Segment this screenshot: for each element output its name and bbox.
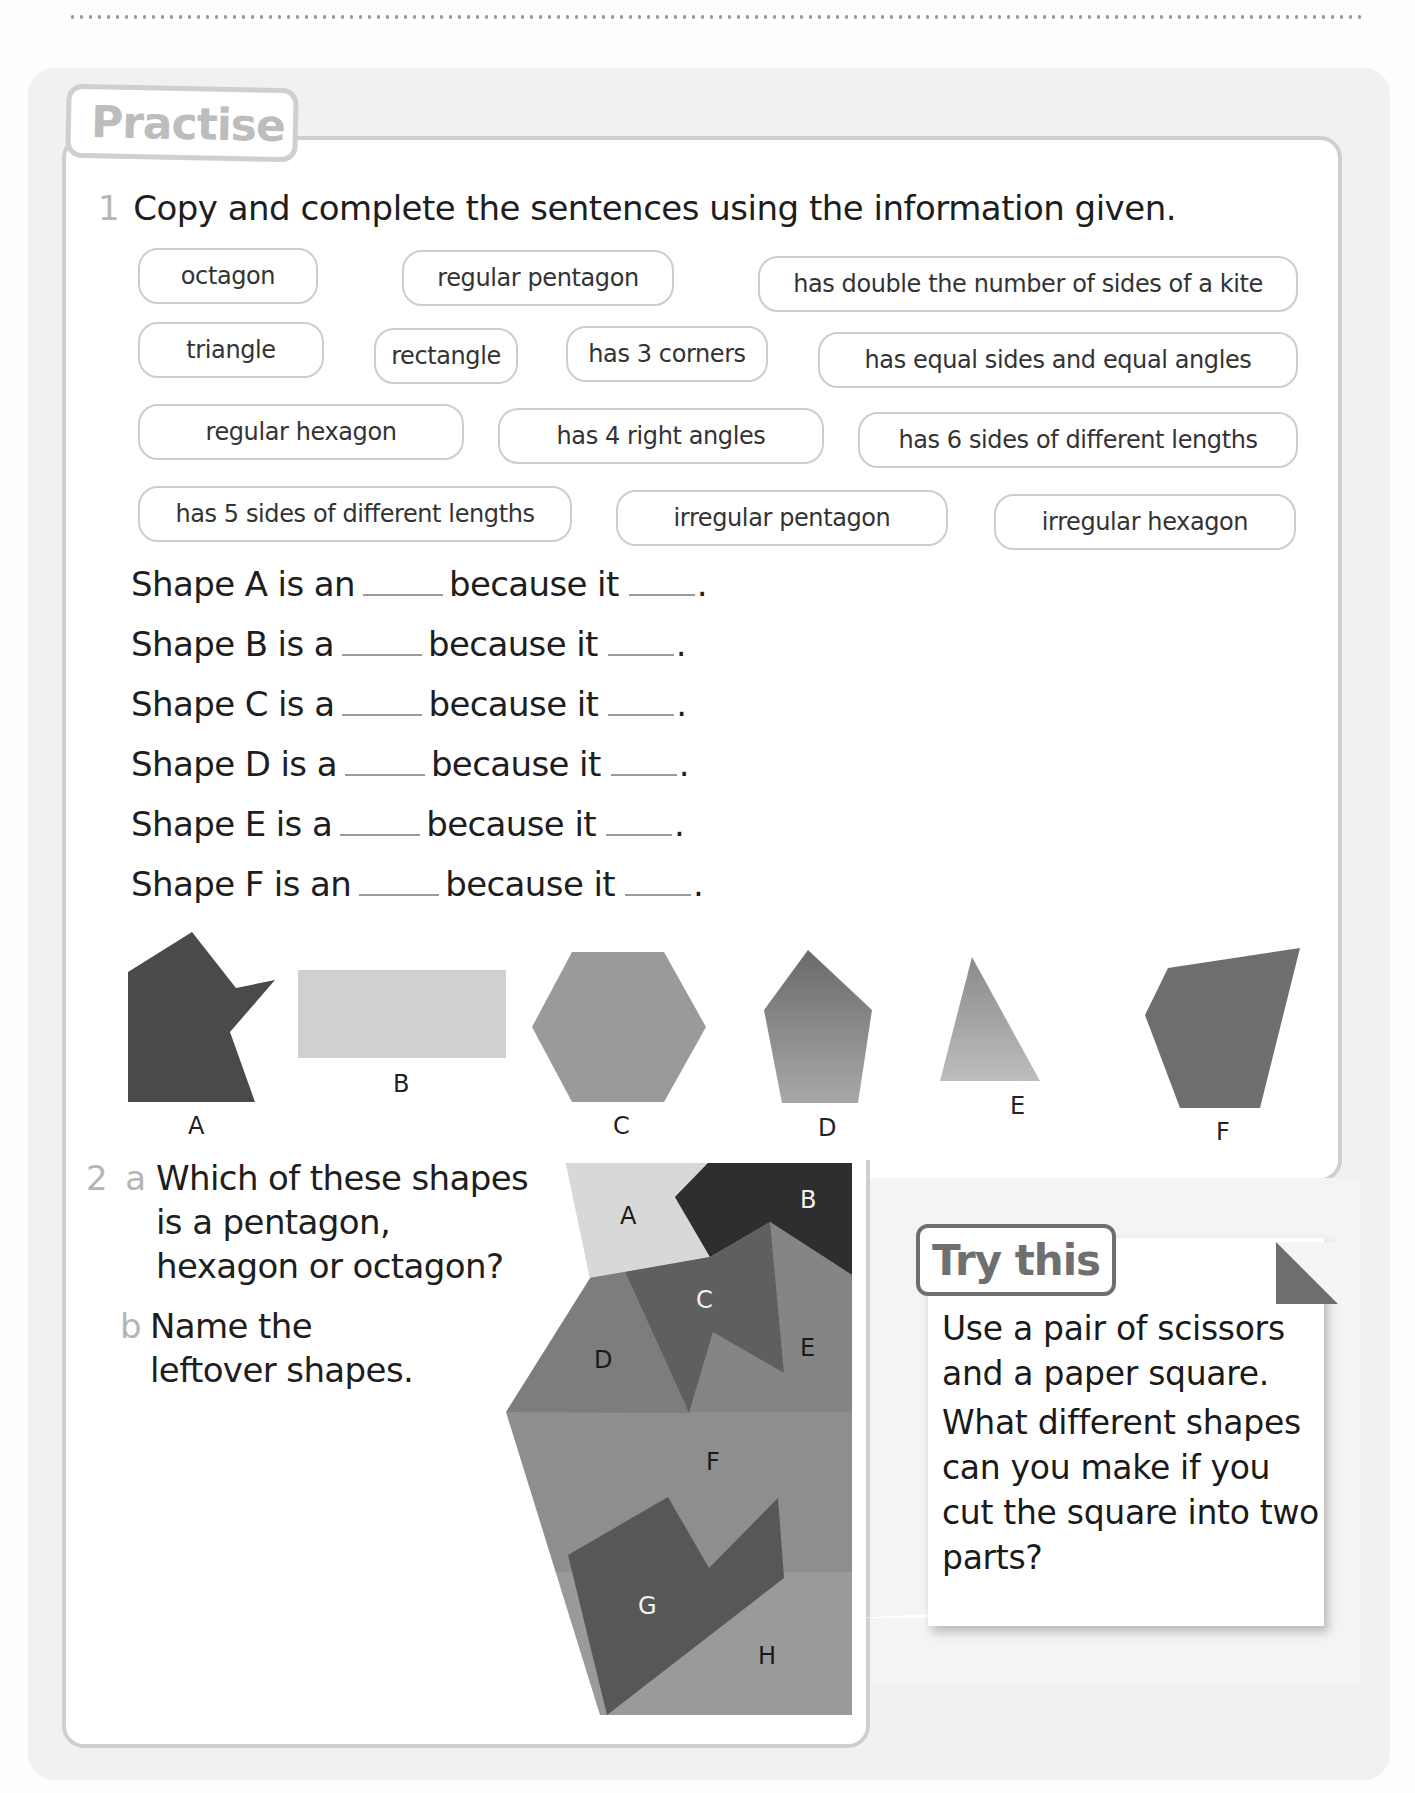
question-2a-text: Which of these shapes is a pentagon, hex… <box>156 1156 528 1288</box>
text-line: Name the <box>150 1304 413 1348</box>
try-this-tab: Try this <box>916 1224 1116 1296</box>
text-line: leftover shapes. <box>150 1348 413 1392</box>
shape-e-triangle-icon <box>940 957 1040 1081</box>
try-this-text: Use a pair of scissors and a paper squar… <box>942 1306 1322 1580</box>
puzzle-label-b: B <box>800 1186 816 1214</box>
puzzle-label-e: E <box>800 1334 815 1362</box>
puzzle-label-f: F <box>706 1448 720 1476</box>
puzzle-label-d: D <box>594 1346 612 1374</box>
try-this-paragraph: What different shapes can you make if yo… <box>942 1400 1322 1580</box>
shape-label-b: B <box>393 1070 409 1098</box>
shape-d-pentagon-icon <box>764 950 872 1103</box>
text-line: hexagon or octagon? <box>156 1244 528 1288</box>
shape-label-d: D <box>818 1114 836 1142</box>
shape-label-e: E <box>1010 1092 1025 1120</box>
puzzle-label-a: A <box>620 1202 636 1230</box>
sub-label-b: b <box>120 1306 141 1346</box>
puzzle-label-c: C <box>696 1286 713 1314</box>
folded-corner-icon <box>1276 1242 1338 1304</box>
text-line: is a pentagon, <box>156 1200 528 1244</box>
shape-label-a: A <box>188 1112 204 1140</box>
question-2b-text: Name the leftover shapes. <box>150 1304 413 1392</box>
puzzle-piece-a <box>565 1163 710 1278</box>
question-number: 2 <box>86 1158 107 1198</box>
shape-label-f: F <box>1216 1118 1230 1146</box>
shape-c-hexagon-icon <box>532 952 706 1102</box>
shape-a-hexagon-icon <box>128 932 275 1102</box>
sub-label-a: a <box>125 1158 145 1198</box>
question-2a: 2 a <box>86 1156 146 1200</box>
puzzle-label-h: H <box>758 1642 776 1670</box>
shape-b-rectangle-icon <box>298 970 506 1058</box>
try-this-title: Try this <box>932 1236 1100 1285</box>
shape-label-c: C <box>613 1112 630 1140</box>
shape-f-pentagon-icon <box>1145 948 1300 1108</box>
question-2b: b <box>120 1304 141 1348</box>
text-line: Which of these shapes <box>156 1156 528 1200</box>
try-this-paragraph: Use a pair of scissors and a paper squar… <box>942 1306 1322 1396</box>
puzzle-label-g: G <box>638 1592 657 1620</box>
